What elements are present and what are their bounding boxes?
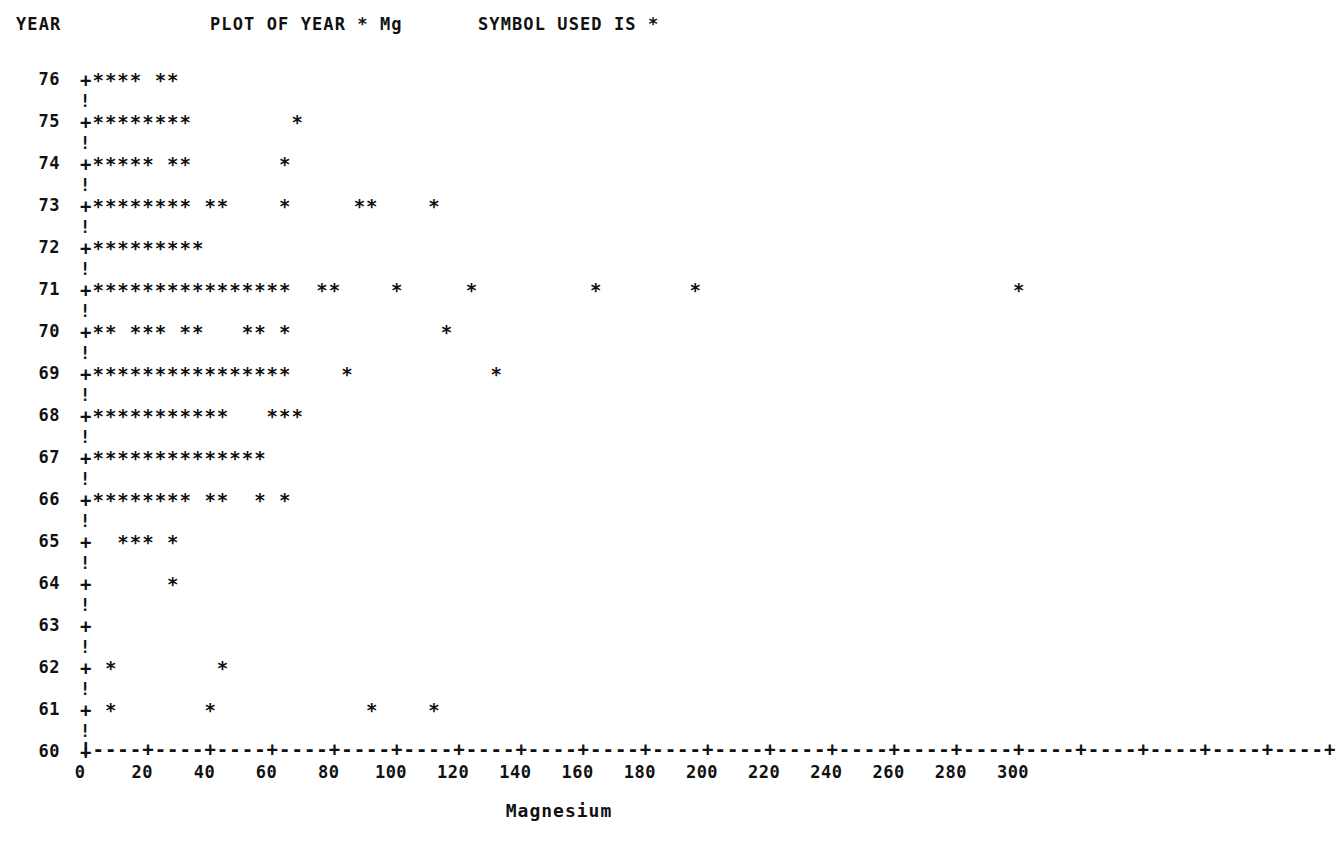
data-row-63: + <box>80 617 92 636</box>
axis-separator-tick: ! <box>80 387 91 404</box>
axis-separator-tick: ! <box>80 429 91 446</box>
axis-separator-tick: ! <box>80 597 91 614</box>
x-axis-title: Magnesium <box>0 800 1118 821</box>
data-row-75: +******** * <box>80 113 304 132</box>
x-tick-200: 200 <box>686 762 718 782</box>
data-row-73: +******** ** * ** * <box>80 197 441 216</box>
axis-separator-tick: ! <box>80 219 91 236</box>
x-tick-20: 20 <box>131 762 152 782</box>
y-axis-label-64: 64 <box>14 573 60 593</box>
x-tick-280: 280 <box>935 762 967 782</box>
x-axis-tick-labels: 0204060801001201401601802002202402602803… <box>80 762 1118 786</box>
axis-separator-tick: ! <box>80 513 91 530</box>
axis-separator-tick: ! <box>80 93 91 110</box>
y-axis-label-72: 72 <box>14 237 60 257</box>
y-axis-label-70: 70 <box>14 321 60 341</box>
symbol-legend-note: SYMBOL USED IS * <box>478 14 659 34</box>
data-row-64: + * <box>80 575 180 594</box>
axis-separator-tick: ! <box>80 135 91 152</box>
y-axis-label-76: 76 <box>14 69 60 89</box>
x-axis-line: !----+----+----+----+----+----+----+----… <box>80 740 1336 759</box>
plot-header: YEAR PLOT OF YEAR * Mg SYMBOL USED IS * <box>0 14 1118 42</box>
y-axis-label-68: 68 <box>14 405 60 425</box>
y-axis-label-67: 67 <box>14 447 60 467</box>
axis-separator-tick: ! <box>80 345 91 362</box>
data-row-68: +*********** *** <box>80 407 304 426</box>
y-axis-label-61: 61 <box>14 699 60 719</box>
data-row-76: +**** ** <box>80 71 180 90</box>
x-tick-240: 240 <box>810 762 842 782</box>
data-row-66: +******** ** * * <box>80 491 291 510</box>
axis-separator-tick: ! <box>80 177 91 194</box>
plot-title: PLOT OF YEAR * Mg <box>210 14 403 34</box>
axis-separator-tick: ! <box>80 555 91 572</box>
x-tick-120: 120 <box>437 762 469 782</box>
x-tick-40: 40 <box>194 762 215 782</box>
data-row-62: + * * <box>80 659 229 678</box>
data-row-67: +************** <box>80 449 267 468</box>
data-row-61: + * * * * <box>80 701 441 720</box>
x-tick-220: 220 <box>748 762 780 782</box>
y-axis-label-73: 73 <box>14 195 60 215</box>
axis-separator-tick: ! <box>80 639 91 656</box>
axis-separator-tick: ! <box>80 261 91 278</box>
data-row-71: +**************** ** * * * * * <box>80 281 1025 300</box>
x-tick-260: 260 <box>872 762 904 782</box>
x-tick-100: 100 <box>375 762 407 782</box>
y-axis-label-69: 69 <box>14 363 60 383</box>
x-tick-0: 0 <box>75 762 86 782</box>
y-axis-label-60: 60 <box>14 741 60 761</box>
axis-separator-tick: ! <box>80 303 91 320</box>
x-tick-80: 80 <box>318 762 339 782</box>
data-row-69: +**************** * * <box>80 365 503 384</box>
data-row-70: +** *** ** ** * * <box>80 323 453 342</box>
data-row-74: +***** ** * <box>80 155 291 174</box>
y-axis-label-75: 75 <box>14 111 60 131</box>
y-axis-label-66: 66 <box>14 489 60 509</box>
x-tick-160: 160 <box>561 762 593 782</box>
data-row-65: + *** * <box>80 533 180 552</box>
x-tick-300: 300 <box>997 762 1029 782</box>
x-tick-140: 140 <box>499 762 531 782</box>
axis-separator-tick: ! <box>80 471 91 488</box>
axis-separator-tick: ! <box>80 681 91 698</box>
y-axis-label-62: 62 <box>14 657 60 677</box>
x-tick-180: 180 <box>624 762 656 782</box>
y-axis-label-65: 65 <box>14 531 60 551</box>
y-axis-label-63: 63 <box>14 615 60 635</box>
x-tick-60: 60 <box>256 762 277 782</box>
year-axis-caption: YEAR <box>16 14 61 34</box>
y-axis-label-74: 74 <box>14 153 60 173</box>
y-axis-label-71: 71 <box>14 279 60 299</box>
data-row-72: +********* <box>80 239 204 258</box>
